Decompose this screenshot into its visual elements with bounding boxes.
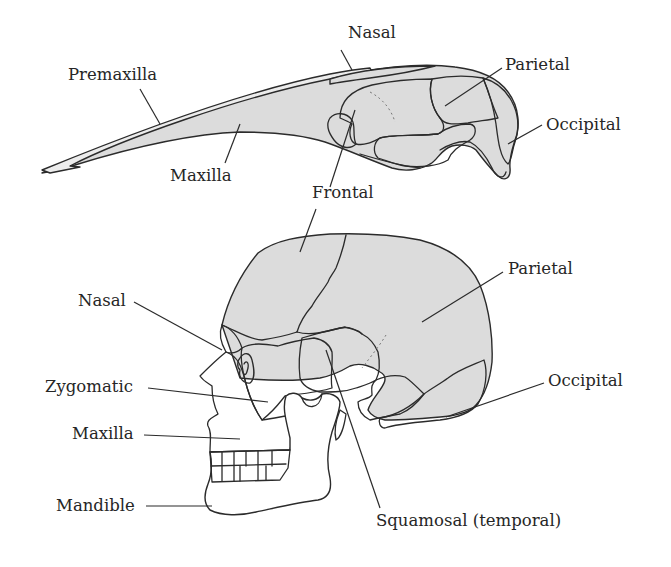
bird-parietal-label: Parietal — [505, 55, 570, 74]
skull-comparison-diagram: Nasal Premaxilla Maxilla Frontal Parieta… — [0, 0, 671, 567]
human-nasal-leader — [134, 302, 222, 350]
human-squamosal-leader — [326, 350, 380, 508]
bird-maxilla-label: Maxilla — [170, 166, 232, 185]
human-maxilla-leader — [144, 435, 240, 439]
human-nasal-label: Nasal — [78, 291, 126, 310]
human-mandible-label: Mandible — [56, 496, 135, 515]
human-maxilla-label: Maxilla — [72, 424, 134, 443]
bird-premaxilla-label: Premaxilla — [68, 65, 157, 84]
bird-premaxilla-leader — [140, 89, 160, 124]
bird-frontal-label: Frontal — [312, 183, 374, 202]
bird-nasal-label: Nasal — [348, 23, 396, 42]
human-skull — [200, 234, 492, 515]
bird-nasal-leader — [341, 50, 352, 70]
human-zygomatic-label: Zygomatic — [45, 377, 133, 396]
human-cranium — [222, 234, 492, 420]
human-squamosal-label: Squamosal (temporal) — [376, 511, 561, 530]
human-occipital-label: Occipital — [548, 371, 623, 390]
human-parietal-label: Parietal — [508, 259, 573, 278]
bird-occipital-label: Occipital — [546, 115, 621, 134]
